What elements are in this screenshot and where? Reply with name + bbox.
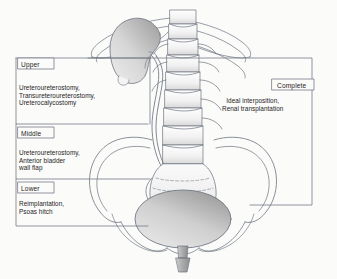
segment-procedures-middle: Ureteroureterostomy, Anterior bladder wa…	[19, 149, 80, 172]
segment-tag-complete: Complete	[277, 82, 306, 90]
segment-tag-lower: Lower	[21, 185, 40, 193]
urethra	[176, 246, 190, 272]
figure-canvas: Upper Ureteroureterostomy, Transureterou…	[0, 0, 337, 279]
kidney	[110, 18, 160, 85]
segment-procedures-complete: Ideal interposition, Renal transplantati…	[222, 97, 283, 112]
anatomical-illustration	[0, 0, 337, 279]
segment-tag-middle: Middle	[21, 130, 41, 138]
bladder	[135, 190, 231, 248]
vertebral-column	[152, 10, 222, 164]
segment-procedures-lower: Reimplantation, Psoas hitch	[19, 200, 64, 215]
segment-procedures-upper: Ureteroureterostomy, Transureterouretero…	[19, 84, 95, 107]
segment-tag-upper: Upper	[21, 61, 40, 69]
